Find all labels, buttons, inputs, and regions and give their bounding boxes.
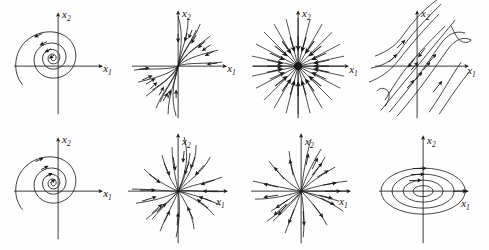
x2-subscript: 2 [187,13,191,22]
figure-canvas: x1 x2 [0,0,489,250]
x2-axis-label: x2 [61,8,71,23]
x1-axis-label: x1 [226,62,236,77]
saddle-trajectories [369,0,471,116]
x2-subscript: 2 [187,141,191,150]
panel-center-ellipses: x1 x2 [367,125,489,250]
x2-subscript: 2 [307,13,311,22]
x2-axis-label: x2 [181,135,191,150]
x1-subscript: 1 [354,69,358,78]
x1-axis-label: x1 [466,64,476,79]
x1-subscript: 1 [108,68,112,77]
x2-axis-label: x2 [301,7,311,22]
x2-axis-label: x2 [181,7,191,22]
panel-unstable-spiral: x1 x2 [0,125,122,250]
x1-subscript: 1 [472,70,476,79]
trajectory-spiral [16,157,76,210]
panel-2-svg: x1 x2 [122,0,244,125]
panel-stable-node-curved: x1 x2 [122,0,244,125]
panel-6-svg: x1 x2 [122,125,244,250]
panel-stable-node-swirled: x1 x2 [122,125,244,250]
x2-axis-label: x2 [304,135,314,150]
x2-subscript: 2 [310,141,314,150]
phase-portrait-grid: x1 x2 [0,0,489,250]
x1-axis-label: x1 [215,195,225,210]
panel-stable-star-node: x1 x2 [245,0,367,125]
panel-4-svg: x1 x2 [367,0,489,125]
x1-subscript: 1 [221,201,225,210]
x2-axis-label: x2 [426,134,436,149]
trajectory-curves [132,137,226,237]
x2-subscript: 2 [67,139,71,148]
x1-subscript: 1 [108,193,112,202]
x2-subscript: 2 [432,140,436,149]
panel-7-svg: x1 x2 [245,125,367,250]
x1-axis-label: x1 [102,62,112,77]
x1-subscript: 1 [466,203,470,212]
flow-arrows [389,41,441,92]
flow-arrows [409,169,465,192]
x1-subscript: 1 [344,201,348,210]
x1-axis-label: x1 [348,63,358,78]
x2-axis-label: x2 [61,133,71,148]
x2-subscript: 2 [67,14,71,23]
panel-stable-spiral: x1 x2 [0,0,122,125]
panel-saddle-point: x1 x2 [367,0,489,125]
panel-8-svg: x1 x2 [367,125,489,250]
panel-unstable-node-swirled: x1 x2 [245,125,367,250]
x1-axis-label: x1 [338,195,348,210]
x1-axis-label: x1 [460,197,470,212]
x1-subscript: 1 [232,68,236,77]
x2-subscript: 2 [426,13,430,22]
trajectory-spiral [16,32,76,85]
x2-axis-label: x2 [420,7,430,22]
x1-axis-label: x1 [102,187,112,202]
equilibrium-point [293,62,301,70]
panel-5-svg: x1 x2 [0,125,122,250]
panel-3-svg: x1 x2 [245,0,367,125]
panel-1-svg: x1 x2 [0,0,122,125]
